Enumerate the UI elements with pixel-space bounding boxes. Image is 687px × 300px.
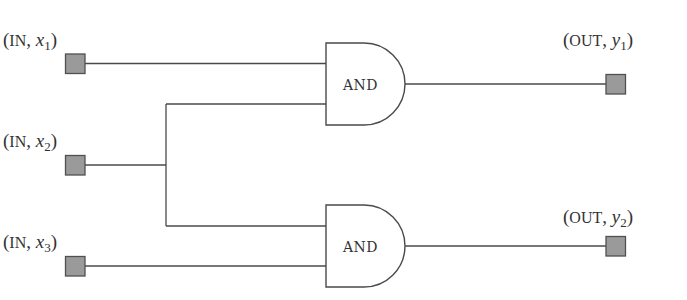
- input-port-x3: [66, 257, 86, 277]
- input-port-x2: [66, 156, 86, 176]
- output-port-y1: [606, 75, 626, 95]
- output-label-y2: (OUT, y2): [563, 206, 633, 230]
- and-gate-1-label: AND: [342, 77, 378, 93]
- and-gate-1: AND: [326, 43, 405, 125]
- output-port-y2: [606, 237, 626, 257]
- input-label-x3: (IN, x3): [3, 231, 57, 255]
- input-label-x1: (IN, x1): [3, 29, 57, 53]
- and-gate-2: AND: [326, 205, 405, 287]
- input-port-x1: [66, 54, 86, 74]
- input-label-x2: (IN, x2): [3, 130, 57, 154]
- output-label-y1: (OUT, y1): [563, 29, 633, 53]
- and-gate-2-label: AND: [342, 239, 378, 255]
- logic-circuit-diagram: AND AND (IN, x1) (IN, x2) (IN, x3) (OUT,…: [0, 0, 687, 300]
